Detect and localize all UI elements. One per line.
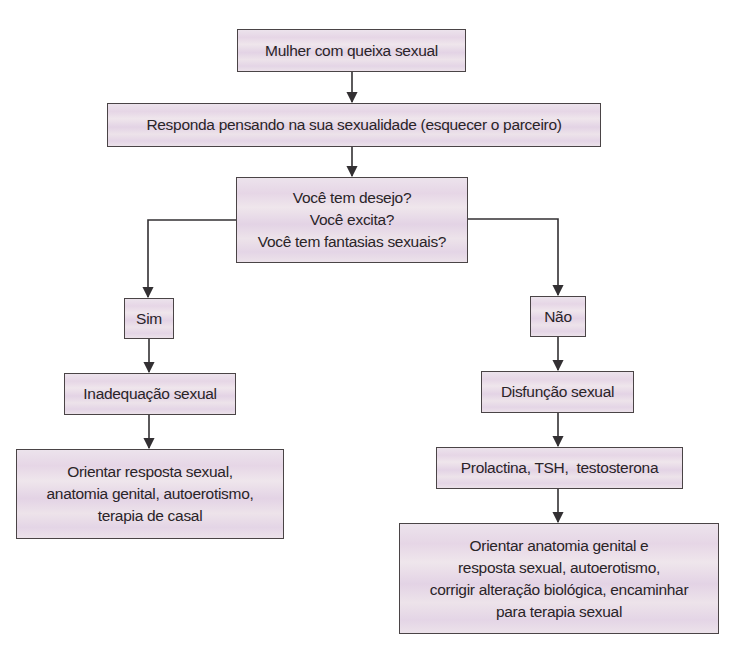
node-labs-text: Prolactina, TSH, testosterona bbox=[461, 458, 658, 478]
question-fantasies: Você tem fantasias sexuais? bbox=[258, 231, 446, 253]
node-labs: Prolactina, TSH, testosterona bbox=[436, 447, 683, 489]
node-inadequacy: Inadequação sexual bbox=[64, 373, 236, 415]
no-action-line-1: Orientar anatomia genital e bbox=[470, 535, 649, 557]
node-no: Não bbox=[530, 296, 586, 337]
node-yes: Sim bbox=[124, 298, 174, 339]
yes-action-line-3: terapia de casal bbox=[98, 505, 203, 527]
node-start: Mulher com queixa sexual bbox=[237, 29, 466, 72]
edge-question-to-no bbox=[468, 219, 558, 295]
edge-question-to-yes bbox=[148, 220, 236, 297]
flowchart-canvas: Mulher com queixa sexual Responda pensan… bbox=[0, 0, 738, 657]
node-yes-action: Orientar resposta sexual, anatomia genit… bbox=[16, 449, 284, 539]
node-yes-text: Sim bbox=[136, 309, 162, 329]
question-arousal: Você excita? bbox=[310, 209, 394, 231]
node-start-text: Mulher com queixa sexual bbox=[265, 41, 438, 61]
node-dysfunction: Disfunção sexual bbox=[481, 371, 634, 413]
node-no-action: Orientar anatomia genital e resposta sex… bbox=[399, 523, 719, 634]
no-action-line-3: corrigir alteração biológica, encaminhar bbox=[430, 579, 689, 601]
question-desire: Você tem desejo? bbox=[293, 187, 411, 209]
node-instruction: Responda pensando na sua sexualidade (es… bbox=[107, 103, 601, 147]
no-action-line-2: resposta sexual, autoerotismo, bbox=[458, 557, 660, 579]
node-instruction-text: Responda pensando na sua sexualidade (es… bbox=[146, 115, 561, 135]
node-inadequacy-text: Inadequação sexual bbox=[83, 384, 216, 404]
node-no-text: Não bbox=[544, 307, 572, 327]
no-action-line-4: para terapia sexual bbox=[496, 601, 622, 623]
yes-action-line-2: anatomia genital, autoerotismo, bbox=[47, 483, 254, 505]
node-question: Você tem desejo? Você excita? Você tem f… bbox=[236, 177, 468, 263]
node-dysfunction-text: Disfunção sexual bbox=[501, 382, 614, 402]
yes-action-line-1: Orientar resposta sexual, bbox=[67, 461, 233, 483]
